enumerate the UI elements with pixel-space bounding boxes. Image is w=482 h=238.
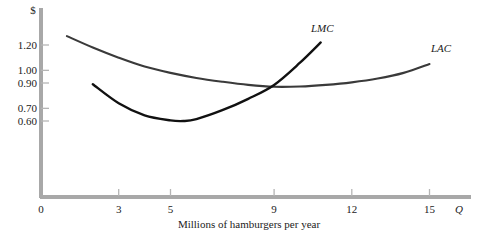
x-tick-label: 12 (346, 203, 357, 215)
x-axis-title: Millions of hamburgers per year (178, 218, 320, 230)
y-tick-label: 0.70 (18, 102, 38, 114)
x-tick-labels: 03591215 (38, 203, 435, 215)
x-tick-label: 3 (116, 203, 122, 215)
lac-curve-label: LAC (430, 42, 452, 54)
x-axis-symbol: Q (455, 203, 463, 215)
lmc-curve (93, 42, 321, 121)
y-tick-label: 0.90 (18, 77, 38, 89)
y-tick-label: 1.20 (18, 39, 38, 51)
y-tick-label: 0.60 (18, 115, 38, 127)
y-axis-title: $ (30, 4, 36, 16)
x-tick-label: 9 (271, 203, 277, 215)
x-tick-label: 5 (168, 203, 174, 215)
y-tick-label: 1.00 (18, 64, 38, 76)
x-tick-marks (119, 189, 430, 196)
axes-group (40, 8, 471, 198)
chart-svg: 1.201.000.900.700.60 03591215 $ Q LMC LA… (0, 0, 482, 238)
cost-curves-chart: 1.201.000.900.700.60 03591215 $ Q LMC LA… (0, 0, 482, 238)
x-tick-label: 15 (424, 203, 436, 215)
x-tick-label: 0 (38, 203, 44, 215)
lmc-curve-label: LMC (310, 22, 334, 34)
y-tick-labels: 1.201.000.900.700.60 (18, 39, 38, 127)
lac-curve (67, 36, 430, 87)
